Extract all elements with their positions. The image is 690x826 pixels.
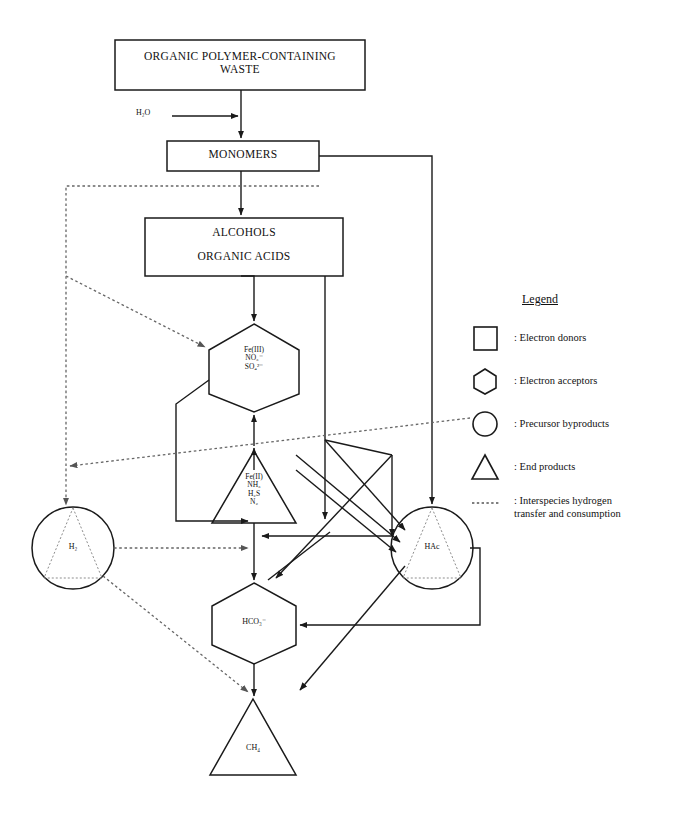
edge-dotted-left-to-acceptors1 bbox=[66, 276, 205, 347]
hexagon-icon bbox=[470, 366, 514, 396]
legend-title: Legend bbox=[522, 292, 685, 307]
node-hac-shape bbox=[391, 507, 473, 589]
legend-item-electron-acceptors: : Electron acceptors bbox=[470, 366, 685, 396]
legend: Legend : Electron donors : Electron acce… bbox=[470, 292, 685, 534]
node-alcohols-shape bbox=[145, 218, 343, 276]
edge-hco3-up-to-junction bbox=[268, 532, 330, 580]
legend-label-electron-donors: : Electron donors bbox=[514, 332, 586, 345]
edge-h2-dotted-to-ch4 bbox=[103, 576, 248, 692]
edge-cross-acceptor-to-hac bbox=[296, 455, 400, 542]
legend-item-interspecies-transfer: : Interspecies hydrogen transfer and con… bbox=[470, 495, 685, 521]
legend-label-electron-acceptors: : Electron acceptors bbox=[514, 375, 597, 388]
legend-item-electron-donors: : Electron donors bbox=[470, 323, 685, 353]
edge-alcohols-to-acceptors1 bbox=[241, 276, 254, 321]
edge-dotted-right-to-left bbox=[70, 418, 470, 466]
solid-connectors bbox=[172, 90, 480, 696]
circle-icon bbox=[470, 409, 514, 439]
legend-label-end-products: : End products bbox=[514, 461, 575, 474]
edge-endprod1-right-to-hac bbox=[296, 470, 396, 552]
edge-cross-right-to-hco3 bbox=[276, 455, 392, 578]
legend-item-precursor-byproducts: : Precursor byproducts bbox=[470, 409, 685, 439]
edge-hac-right-loop-to-hco3 bbox=[300, 548, 480, 625]
node-monomers-shape bbox=[167, 141, 319, 171]
triangle-icon bbox=[470, 452, 514, 482]
edge-hac-to-ch4 bbox=[300, 566, 405, 690]
node-waste-shape bbox=[115, 40, 365, 90]
edge-monomers-dotted-left bbox=[66, 186, 319, 505]
legend-label-precursor-byproducts: : Precursor byproducts bbox=[514, 418, 609, 431]
node-acceptors1-shape bbox=[209, 324, 299, 412]
legend-item-end-products: : End products bbox=[470, 452, 685, 482]
square-icon bbox=[470, 323, 514, 353]
inscribed-triangles bbox=[44, 508, 461, 578]
node-h2-shape bbox=[32, 507, 114, 589]
edge-alcohols-branch-to-hac bbox=[325, 440, 405, 530]
dotted-connectors bbox=[66, 186, 470, 692]
legend-label-interspecies-transfer: : Interspecies hydrogen transfer and con… bbox=[514, 495, 621, 521]
edge-acceptors1-left-loop bbox=[176, 380, 248, 521]
edge-acceptor-right-branch bbox=[325, 440, 392, 455]
node-hco3-shape bbox=[212, 583, 296, 664]
diagram-canvas: ORGANIC POLYMER-CONTAINING WASTE MONOMER… bbox=[0, 0, 690, 826]
dotted-line-icon bbox=[470, 495, 514, 511]
node-ch4-shape bbox=[210, 699, 296, 775]
